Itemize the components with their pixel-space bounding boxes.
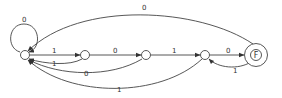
edge-s1-s2: 0	[90, 47, 141, 55]
edge-label: 0	[113, 47, 117, 55]
edge-label: 1	[233, 67, 237, 75]
state-s3	[201, 51, 210, 60]
automaton-diagram: 0 1 1 0 0 1 1 0 1 0	[0, 0, 282, 98]
edge-s2-s0: 0	[29, 59, 142, 78]
edge-label: 1	[52, 60, 56, 68]
edge-F-s0: 0	[28, 4, 253, 51]
edge-label: 1	[52, 47, 56, 55]
edge-label: 0	[142, 4, 146, 12]
state-s2	[142, 51, 151, 60]
state-label: F	[254, 51, 259, 60]
state-F-accepting: F	[245, 44, 268, 67]
edge-label: 0	[226, 47, 230, 55]
state-s1	[81, 51, 90, 60]
state-s0	[21, 51, 30, 60]
edge-label: 0	[84, 70, 88, 78]
edge-label: 1	[117, 86, 121, 94]
edge-s2-s3: 1	[151, 47, 200, 55]
edge-label: 1	[172, 47, 176, 55]
edge-F-s3: 1	[209, 59, 251, 75]
edge-s0-s1: 1	[30, 47, 80, 55]
edge-label: 0	[22, 16, 26, 24]
edge-s3-F: 0	[210, 47, 244, 55]
